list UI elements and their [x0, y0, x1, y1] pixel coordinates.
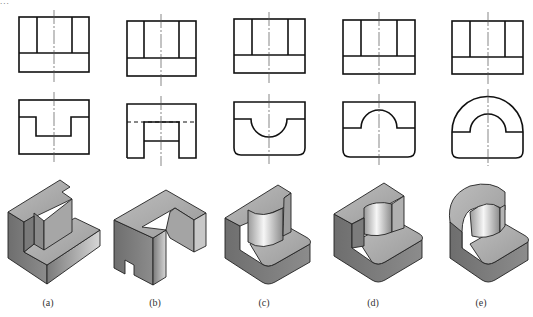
- figure-e-front-view: [452, 97, 523, 159]
- figure-d-isometric-solid: [334, 183, 423, 282]
- figure-label-e: (e): [475, 297, 486, 308]
- center-lines: [54, 10, 488, 166]
- figure-c-isometric-solid: [225, 185, 311, 284]
- figure-label-c: (c): [258, 297, 269, 308]
- figure-a-isometric-solid: [8, 180, 100, 284]
- figure-label-b: (b): [149, 297, 161, 308]
- figure-label-d: (d): [367, 297, 379, 308]
- figure-c-top-view: [234, 19, 305, 73]
- figure-b-isometric-solid: [114, 190, 206, 285]
- orthographic-projection-diagram: [0, 0, 533, 317]
- figure-e-top-view: [452, 21, 523, 74]
- figure-b-front-view: [127, 104, 196, 158]
- figure-label-a: (a): [42, 297, 53, 308]
- figure-e-isometric-solid: [449, 184, 528, 282]
- figure-b-top-view: [127, 21, 196, 76]
- figure-c-front-view: [234, 102, 305, 155]
